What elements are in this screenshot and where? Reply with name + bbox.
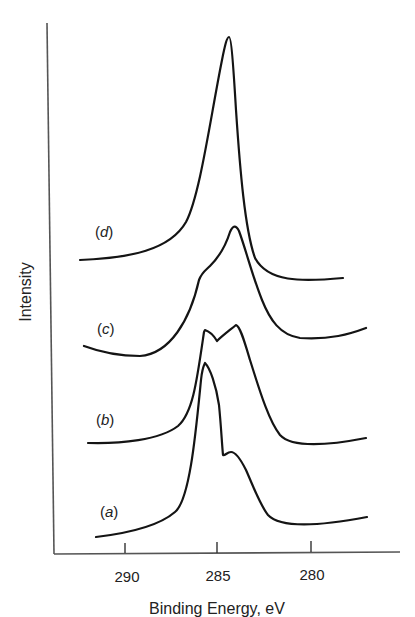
y-axis-title: Intensity (17, 262, 34, 322)
trace-b (88, 325, 366, 444)
xps-chart: 290 285 280 Binding Energy, eV Intensity… (0, 0, 415, 617)
curve-label-c: (c) (97, 320, 115, 337)
trace-a (96, 363, 367, 537)
trace-c (84, 227, 366, 356)
curve-label-b: (b) (96, 411, 114, 428)
curve-label-d: (d) (95, 223, 113, 240)
x-axis-title: Binding Energy, eV (149, 600, 285, 617)
x-axis (54, 552, 400, 554)
trace-d (80, 37, 343, 280)
x-tick-label-290: 290 (114, 568, 139, 585)
y-axis (47, 23, 54, 554)
curve-label-a: (a) (100, 503, 118, 520)
x-tick-label-285: 285 (205, 567, 230, 584)
x-tick-label-280: 280 (299, 566, 324, 583)
